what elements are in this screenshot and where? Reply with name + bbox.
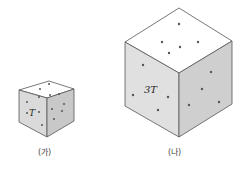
figure-canvas: T 3T: [0, 0, 243, 172]
large-cube-temperature-label: 3T: [144, 84, 158, 95]
small-cube-temperature-label: T: [29, 108, 36, 118]
caption-na: (나): [168, 146, 181, 157]
small-cube: T: [19, 81, 74, 137]
large-cube: 3T: [125, 8, 232, 137]
caption-ga: (가): [38, 146, 51, 157]
